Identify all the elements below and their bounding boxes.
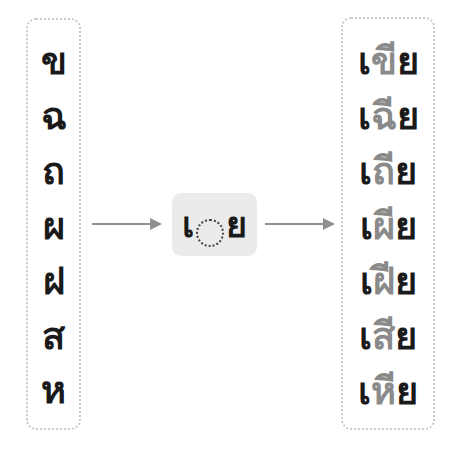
syllable-chia: เฉีย [358,91,419,141]
consonant-tho-thung: ถ [42,146,65,196]
syllable-hia: เหีย [358,366,418,416]
arrow-right-icon [265,223,325,225]
syllable-list: เขีย เฉีย เถีย เผีย เฝีย เสีย เหีย [343,19,433,428]
vowel-pattern-box: เ ย [172,193,257,256]
consonant-fo-fa: ฝ [43,256,65,306]
syllable-fia: เฝีย [360,256,417,306]
consonant-kho-khai: ข [41,36,67,86]
consonant-list: ข ฉ ถ ผ ฝ ส ห [28,20,79,428]
syllable-phia: เผีย [360,201,417,251]
pattern-suffix: ย [226,196,247,253]
pattern-prefix: เ [182,196,194,253]
consonant-pho-phueng: ผ [43,201,65,251]
consonant-placeholder-icon [196,219,224,247]
syllable-thia: เถีย [359,146,417,196]
consonant-cho-ching: ฉ [41,91,67,141]
input-consonant-box: ข ฉ ถ ผ ฝ ส ห [26,18,81,430]
output-syllable-box: เขีย เฉีย เถีย เผีย เฝีย เสีย เหีย [341,17,435,430]
vowel-pattern: เ ย [182,196,247,253]
syllable-sia: เสีย [359,311,417,361]
arrow-right-icon [92,223,152,225]
syllable-khia: เขีย [358,36,419,86]
consonant-so-suea: ส [42,311,65,361]
consonant-ho-hip: ห [41,365,66,415]
